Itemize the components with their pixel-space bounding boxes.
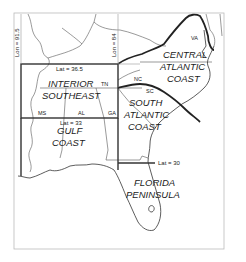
state-label-tn: TN [101,81,108,87]
region-label-gulf-coast: GULF COAST [52,125,86,148]
state-label-ms: MS [38,110,47,116]
lon-84-label: Lon = 84 [111,33,117,57]
state-label-sc: SC [146,88,154,94]
lon-91-5-label: Lon = 91.5 [14,28,20,57]
svg-text:FLORIDA: FLORIDA [134,177,175,188]
state-label-nc: NC [134,76,142,82]
region-label-central-atlantic-coast: CENTRAL ATLANTIC COAST [159,49,207,84]
svg-text:COAST: COAST [167,73,201,84]
region-label-interior-southeast: INTERIOR SOUTHEAST [42,78,101,101]
state-label-va: VA [191,35,198,41]
state-label-al: AL [78,110,85,116]
svg-text:ATLANTIC: ATLANTIC [159,61,205,72]
region-label-south-atlantic-coast: SOUTH ATLANTIC COAST [123,97,169,132]
region-label-florida-peninsula: FLORIDA PENINSULA [126,177,180,200]
svg-text:INTERIOR: INTERIOR [48,78,94,89]
svg-text:COAST: COAST [128,121,162,132]
svg-text:CENTRAL: CENTRAL [163,49,207,60]
southeast-regions-map: Lon = 91.5 Lon = 84 Lat = 36.5 Lat = 33 … [0,0,246,262]
state-label-ga: GA [108,110,116,116]
svg-text:SOUTH: SOUTH [129,97,162,108]
lat-36-5-label: Lat = 36.5 [56,66,84,72]
svg-text:ATLANTIC: ATLANTIC [123,109,169,120]
svg-text:GULF: GULF [57,125,84,136]
lat-30-label: Lat = 30 [158,160,181,166]
svg-text:PENINSULA: PENINSULA [126,189,180,200]
svg-text:SOUTHEAST: SOUTHEAST [42,90,101,101]
svg-text:COAST: COAST [52,137,86,148]
